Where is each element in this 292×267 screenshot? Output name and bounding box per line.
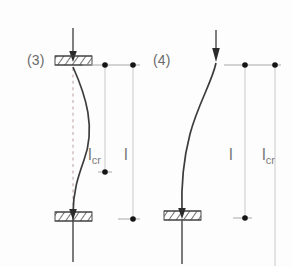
dimension-label-lcr-case3: lcr	[88, 146, 101, 166]
case-label-3: (3)	[27, 52, 45, 68]
dimension-label-subscript: cr	[92, 154, 101, 166]
dimension-label-base: l	[229, 145, 233, 164]
case-4-buckled-curve	[182, 63, 216, 213]
column-buckling-figure: (3) (4) lcr l l lcr	[0, 0, 292, 267]
dimension-label-l-case3: l	[124, 146, 128, 166]
buckling-diagram-svg	[0, 0, 292, 267]
dimension-label-subscript: cr	[266, 154, 275, 166]
dimension-label-base: l	[124, 145, 128, 164]
case-3-bottom-support	[55, 209, 92, 221]
case-3-dimension-l	[112, 62, 140, 222]
case-label-4: (4)	[153, 52, 171, 68]
case-4-dimension-l	[224, 62, 252, 221]
case-3-buckled-curve	[73, 67, 89, 214]
case-3-top-support	[55, 56, 92, 65]
dimension-label-lcr-case4: lcr	[262, 146, 275, 166]
case-4-bottom-support	[164, 208, 201, 220]
case-4-load-arrow	[212, 30, 220, 62]
dimension-label-l-case4: l	[229, 146, 233, 166]
